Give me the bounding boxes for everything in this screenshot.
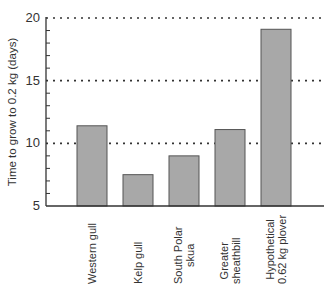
bar	[169, 156, 199, 206]
bar	[261, 29, 291, 206]
y-tick-label: 20	[20, 10, 40, 25]
x-category-label: Kelp gull	[132, 242, 144, 284]
bar	[77, 126, 107, 206]
x-category-label: Greatersheathbill	[218, 238, 242, 284]
bar	[215, 130, 245, 206]
x-category-label: Western gull	[86, 223, 98, 284]
y-tick-label: 15	[20, 73, 40, 88]
y-tick-label: 10	[20, 135, 40, 150]
x-category-label: South Polarskua	[172, 227, 196, 284]
y-tick-label: 5	[20, 198, 40, 213]
bar	[123, 175, 153, 206]
x-category-label: Hypothetical0.62 kg plover	[264, 215, 288, 284]
y-axis-label: Time to grow to 0.2 kg (days)	[6, 38, 18, 187]
